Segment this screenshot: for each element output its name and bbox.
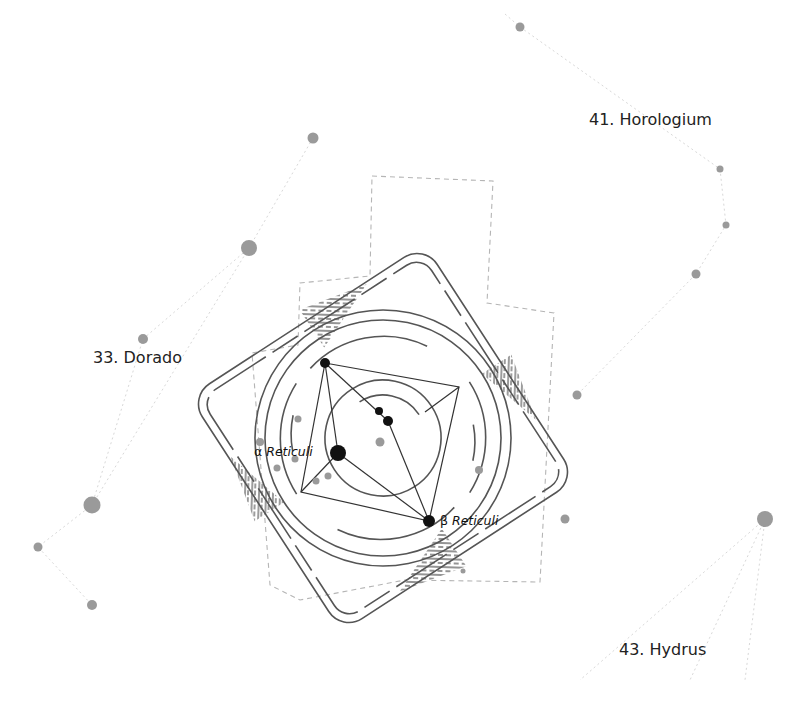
neighbor-star-icon <box>295 416 302 423</box>
neighbor-star-icon <box>475 466 483 474</box>
neighbor-star-icon <box>325 473 332 480</box>
label-horologium: 41. Horologium <box>589 110 712 129</box>
reticulum-star-icon <box>375 407 383 415</box>
neighbor-star-icon <box>461 569 466 574</box>
neighbor-star-icon <box>84 497 101 514</box>
neighbor-star-icon <box>757 511 773 527</box>
neighbor-star-icon <box>34 543 43 552</box>
greek-letter: α <box>254 444 262 459</box>
reticulum-star-icon <box>330 445 346 461</box>
reticle-frame <box>171 226 594 649</box>
neighbor-star-icon <box>717 166 724 173</box>
neighbor-star-icon <box>241 240 257 256</box>
neighbor-star-icon <box>692 270 701 279</box>
neighbor-star-icon <box>723 222 730 229</box>
star-name: Reticuli <box>452 513 499 528</box>
label-alpha-reticuli: α Reticuli <box>254 444 313 459</box>
greek-letter: β <box>440 513 448 528</box>
neighbor-star-icon <box>87 600 97 610</box>
neighbor-star-icon <box>138 334 148 344</box>
star-name: Reticuli <box>266 444 313 459</box>
reticulum-star-icon <box>423 515 435 527</box>
neighbor-star-icon <box>573 391 582 400</box>
neighbor-star-icon <box>308 133 319 144</box>
label-dorado: 33. Dorado <box>93 348 182 367</box>
neighbor-star-icon <box>313 478 320 485</box>
reticulum-star-icon <box>320 358 330 368</box>
reticulum-star-icon <box>383 416 393 426</box>
neighbor-star-icon <box>274 465 281 472</box>
neighbor-star-icon <box>561 515 570 524</box>
neighbor-star-icon <box>516 23 525 32</box>
label-hydrus: 43. Hydrus <box>619 640 706 659</box>
neighbor-star-icon <box>376 438 385 447</box>
label-beta-reticuli: β Reticuli <box>440 513 498 528</box>
